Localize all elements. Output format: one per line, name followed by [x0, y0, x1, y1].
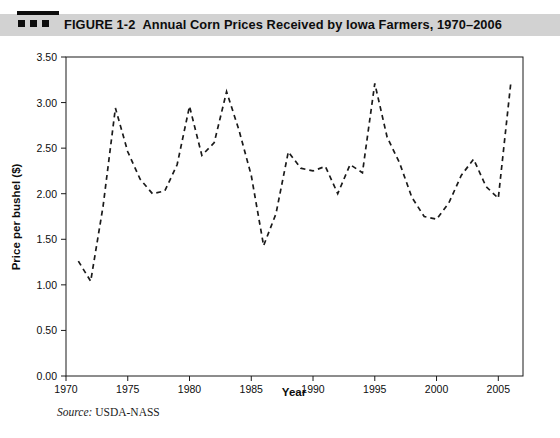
plot-frame [66, 57, 523, 376]
y-axis-ticks [61, 57, 66, 376]
source-note: Source: USDA-NASS [57, 406, 160, 418]
x-tick-label: 2000 [425, 383, 449, 395]
x-axis-ticks [66, 376, 498, 381]
x-axis-title: Year [282, 386, 307, 398]
figure-marker-square-3 [42, 20, 49, 27]
source-value: USDA-NASS [95, 406, 160, 418]
figure-title-text: Annual Corn Prices Received by Iowa Farm… [142, 17, 502, 32]
x-tick-label: 1975 [116, 383, 140, 395]
y-tick-label: 1.50 [37, 233, 58, 245]
y-axis-tick-labels: 0.000.501.001.502.002.503.003.50 [37, 51, 58, 382]
y-tick-label: 0.00 [37, 370, 58, 382]
x-tick-label: 1980 [178, 383, 202, 395]
corn-price-line-chart: 0.000.501.001.502.002.503.003.50 1970197… [0, 40, 560, 400]
x-tick-label: 1970 [54, 383, 78, 395]
y-tick-label: 3.50 [37, 51, 58, 63]
y-axis-title: Price per bushel ($) [10, 163, 22, 270]
x-tick-label: 2005 [487, 383, 511, 395]
figure-header-band: FIGURE 1-2Annual Corn Prices Received by… [0, 14, 560, 36]
y-tick-label: 2.00 [37, 188, 58, 200]
source-label: Source: [57, 406, 92, 418]
y-tick-label: 1.00 [37, 279, 58, 291]
y-tick-label: 2.50 [37, 142, 58, 154]
figure-caption: FIGURE 1-2Annual Corn Prices Received by… [64, 16, 502, 34]
figure-marker-square-2 [30, 20, 37, 27]
y-tick-label: 3.00 [37, 97, 58, 109]
figure-marker-bar [17, 11, 59, 15]
chart-container: 0.000.501.001.502.002.503.003.50 1970197… [0, 40, 560, 400]
y-tick-label: 0.50 [37, 324, 58, 336]
figure-number: FIGURE 1-2 [64, 17, 135, 32]
x-tick-label: 1995 [363, 383, 387, 395]
x-tick-label: 1985 [240, 383, 264, 395]
figure-marker-icon [17, 11, 59, 31]
figure-marker-square-1 [18, 20, 25, 27]
